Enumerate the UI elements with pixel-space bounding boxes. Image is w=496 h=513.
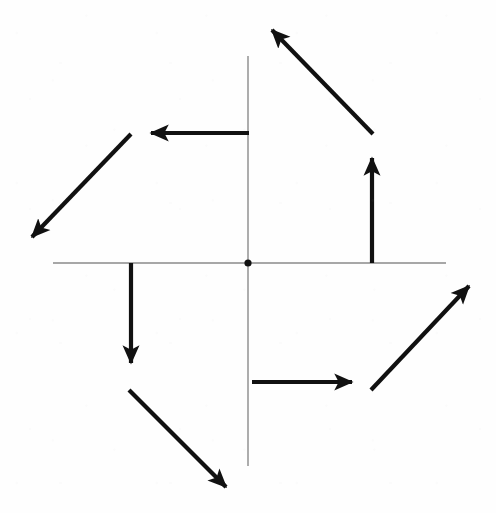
- vector-arrow-v1: [272, 30, 373, 134]
- diagram-canvas: [0, 0, 496, 513]
- vector-field-diagram: [0, 0, 496, 513]
- vector-arrow-v5: [129, 390, 226, 487]
- vector-arrows-group: [32, 30, 469, 487]
- vector-arrow-v3: [32, 134, 131, 237]
- vector-arrow-v7: [371, 286, 469, 390]
- origin-point-marker: [244, 259, 251, 266]
